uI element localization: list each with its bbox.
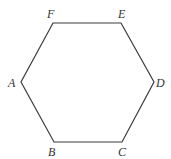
hexagon-diagram: A B C D E F bbox=[0, 0, 171, 159]
vertex-label-b: B bbox=[48, 145, 56, 159]
vertex-label-e: E bbox=[117, 7, 126, 21]
hexagon-outline bbox=[21, 23, 154, 142]
vertex-label-f: F bbox=[46, 7, 55, 21]
vertex-label-c: C bbox=[118, 145, 127, 159]
vertex-label-a: A bbox=[7, 76, 16, 90]
vertex-label-d: D bbox=[155, 76, 165, 90]
